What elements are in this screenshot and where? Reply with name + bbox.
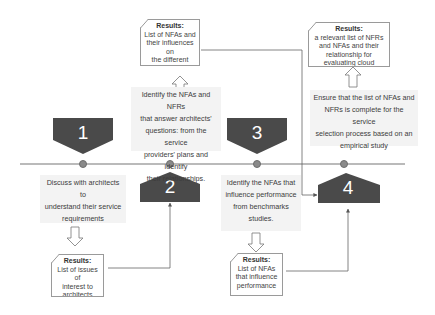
step-3-result: Results: List of NFAs that influence per… <box>230 253 283 296</box>
arrow-down-icon <box>67 227 83 246</box>
step-3-description: Identify the NFAs that influence perform… <box>221 175 301 231</box>
timeline-dot-1 <box>79 160 87 168</box>
step-2-result: Results: List of NFAs and their influenc… <box>140 19 200 66</box>
step-badge-4: 4 <box>318 173 378 213</box>
arrow-down-icon <box>248 233 264 252</box>
arrow-up-icon <box>345 67 361 87</box>
process-diagram: 1 2 3 4 Discuss with architects to under… <box>0 0 435 315</box>
step-2-description: Identify the NFAs and NFRs that answer a… <box>131 87 221 151</box>
step-1-description: Discuss with architects to understand th… <box>40 175 126 223</box>
step-1-result: Results: List of issues of interest to a… <box>51 254 104 297</box>
step-4-description: Ensure that the list of NFAs and NFRs is… <box>310 90 418 146</box>
step-badge-3: 3 <box>227 118 287 158</box>
step-badge-1: 1 <box>53 118 113 158</box>
timeline-dot-4 <box>340 160 348 168</box>
step-4-result: Results: a relevant list of NFRs and NFA… <box>308 22 390 67</box>
timeline-dot-3 <box>253 160 261 168</box>
